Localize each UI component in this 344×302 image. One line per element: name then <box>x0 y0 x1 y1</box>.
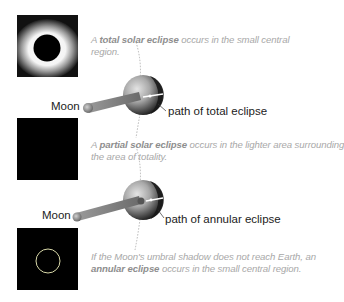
moon-icon <box>73 213 82 222</box>
caption-text: occurs in the small central region. <box>159 263 301 274</box>
caption-line-1: A total solar eclipse occurs in the smal… <box>91 34 289 46</box>
caption-text: A <box>91 34 100 45</box>
moon-label-bottom: Moon <box>42 209 71 221</box>
moon-label-top: Moon <box>51 100 80 112</box>
moon-icon <box>83 103 93 113</box>
caption-line-2: annular eclipse occurs in the small cent… <box>91 263 316 275</box>
leader-line <box>136 114 140 138</box>
path-label-total: path of total eclipse <box>168 105 267 117</box>
caption-term: partial solar eclipse <box>100 139 188 150</box>
caption-text: occurs in the small central <box>179 34 290 45</box>
caption-line-1: If the Moon's umbral shadow does not rea… <box>91 251 316 263</box>
caption-line-1: A partial solar eclipse occurs in the li… <box>91 139 344 151</box>
path-label-annular: path of annular eclipse <box>165 213 281 225</box>
partial-eclipse-caption: A partial solar eclipse occurs in the li… <box>91 139 344 163</box>
caption-text: A <box>91 139 100 150</box>
caption-term: annular eclipse <box>91 263 159 274</box>
leader-line <box>135 219 140 250</box>
caption-line-2: region. <box>91 46 289 58</box>
annular-eclipse-caption: If the Moon's umbral shadow does not rea… <box>91 251 316 275</box>
total-eclipse-caption: A total solar eclipse occurs in the smal… <box>91 34 289 58</box>
caption-line-2: the area of totality. <box>91 151 344 163</box>
path-pointer <box>158 210 164 218</box>
caption-term: total solar eclipse <box>100 34 179 45</box>
caption-text: occurs in the lighter area surrounding <box>187 139 344 150</box>
